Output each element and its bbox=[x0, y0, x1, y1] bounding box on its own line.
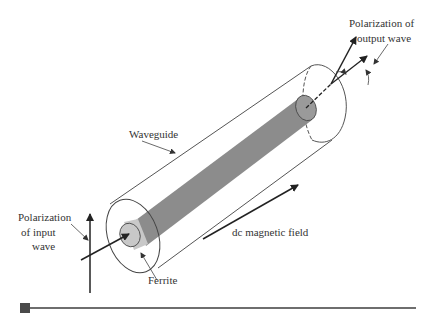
waveguide-cylinder bbox=[97, 65, 347, 281]
footer-square bbox=[20, 303, 30, 313]
waveguide-leader-line bbox=[142, 141, 175, 153]
output-polarization-arrow bbox=[331, 37, 356, 84]
label-input-polarization-3: wave bbox=[32, 240, 55, 252]
label-input-polarization-2: of input bbox=[21, 226, 56, 238]
ferrite-rod bbox=[136, 96, 312, 246]
rotation-arc-lower bbox=[366, 70, 369, 85]
footer-rule bbox=[30, 307, 416, 309]
label-output-polarization-2: output wave bbox=[357, 32, 411, 44]
label-dc-field: dc magnetic field bbox=[232, 226, 309, 238]
label-input-polarization-1: Polarization bbox=[18, 211, 72, 223]
label-output-polarization-1: Polarization of bbox=[349, 17, 414, 29]
label-waveguide: Waveguide bbox=[129, 128, 178, 140]
output-leader-line bbox=[374, 44, 388, 64]
output-polarization bbox=[306, 37, 388, 108]
input-leader-line bbox=[71, 224, 88, 240]
faraday-rotation-diagram: Polarization of output wave Waveguide Po… bbox=[0, 0, 438, 316]
output-rotated-arrow bbox=[331, 56, 367, 84]
label-ferrite: Ferrite bbox=[148, 274, 177, 286]
